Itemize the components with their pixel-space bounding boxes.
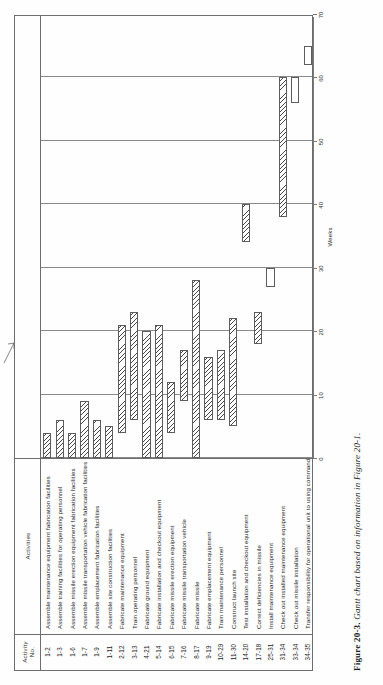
- cell-activity-no: 33-34: [289, 634, 301, 670]
- axis-tick-label-0: 0: [318, 457, 324, 460]
- gantt-bar-9-19: [204, 357, 212, 420]
- axis-tick-label-70: 70: [318, 12, 324, 19]
- axis-tick-label-40: 40: [318, 202, 324, 209]
- axis-tick-label-60: 60: [318, 75, 324, 82]
- gridline-week-60: [41, 76, 312, 77]
- cell-activity-name: Assemble missile transportation vehicle …: [78, 458, 90, 634]
- cell-activity-no: 17-18: [252, 634, 264, 670]
- cell-activity-name: Assemble missile erection equipment fabr…: [66, 458, 78, 634]
- axis-tick-label-30: 30: [318, 265, 324, 272]
- cell-activity-no: 3-13: [128, 634, 140, 670]
- gantt-bar-17-18: [254, 312, 262, 344]
- scanned-figure-page: Activity No. Activities 1-2Assemble main…: [0, 0, 383, 685]
- cell-activity-no: 1-7: [78, 634, 90, 670]
- axis-tick-0: [313, 458, 317, 459]
- axis-tick-20: [313, 331, 317, 332]
- rotated-page-wrapper: Activity No. Activities 1-2Assemble main…: [0, 0, 383, 685]
- cell-activity-name: Assemble training facilities for operati…: [53, 458, 65, 634]
- gantt-bar-1-3: [56, 420, 64, 458]
- axis-title-weeks: Weeks: [327, 227, 333, 246]
- cell-activity-no: 4-21: [140, 634, 152, 670]
- figure-sheet: Activity No. Activities 1-2Assemble main…: [0, 0, 383, 685]
- cell-activity-no: 1-6: [66, 634, 78, 670]
- figure-caption: Figure 20-3. Gantt chart based on inform…: [352, 15, 362, 671]
- cell-activity-no: 1-9: [91, 634, 103, 670]
- cell-activity-name: Fabricate ground equipment: [140, 458, 152, 634]
- cell-activity-no: 2-12: [115, 634, 127, 670]
- gantt-bar-10-29: [217, 350, 225, 420]
- cell-activity-no: 7-16: [178, 634, 190, 670]
- cell-activity-name: Install maintenance equipment: [264, 458, 276, 634]
- gantt-bar-33-34: [291, 77, 299, 102]
- cell-activity-name: Check out installed maintenance equipmen…: [277, 458, 289, 634]
- gantt-bar-6-15: [167, 382, 175, 433]
- axis-tick-60: [313, 77, 317, 78]
- gantt-bar-1-11: [105, 426, 113, 458]
- cell-activity-no: 31-34: [277, 634, 289, 670]
- cell-activity-no: 14-20: [240, 634, 252, 670]
- gantt-bar-25-31: [266, 268, 274, 287]
- figure-title: Gantt chart based on information in Figu…: [352, 433, 362, 620]
- axis-tick-40: [313, 204, 317, 205]
- cell-activity-no: 11-30: [227, 634, 239, 670]
- axis-tick-30: [313, 268, 317, 269]
- cell-activity-no: 8-17: [190, 634, 202, 670]
- gantt-bar-8-17: [192, 280, 200, 458]
- gantt-bar-11-30: [229, 318, 237, 426]
- cell-activity-name: Transfer responsibility for operational …: [302, 458, 314, 634]
- cell-activity-no: 1-11: [103, 634, 115, 670]
- axis-tick-label-10: 10: [318, 392, 324, 399]
- gantt-bar-3-13: [130, 312, 138, 420]
- cell-activity-no: 5-14: [153, 634, 165, 670]
- gantt-bar-1-2: [43, 433, 51, 458]
- gantt-plot-area: [41, 16, 312, 458]
- gantt-bar-2-12: [118, 325, 126, 433]
- gridline-week-50: [41, 140, 312, 141]
- gantt-bar-4-21: [142, 331, 150, 458]
- cell-activity-name: Assemble site construction facilities: [103, 458, 115, 634]
- cell-activity-no: 6-15: [165, 634, 177, 670]
- gantt-bar-1-6: [68, 433, 76, 458]
- cell-activity-name: Correct deficiencies in missile: [252, 458, 264, 634]
- cell-activity-name: Construct launch site: [227, 458, 239, 634]
- gantt-bar-7-16: [180, 350, 188, 401]
- gridline-week-20: [41, 330, 312, 331]
- gridline-week-10: [41, 394, 312, 395]
- cell-activity-no: 10-29: [215, 634, 227, 670]
- cell-activity-no: 34-35: [302, 634, 314, 670]
- gantt-bar-34-35: [304, 46, 312, 65]
- axis-tick-label-50: 50: [318, 139, 324, 146]
- axis-tick-50: [313, 141, 317, 142]
- cell-activity-no: 9-19: [202, 634, 214, 670]
- axis-tick-label-20: 20: [318, 329, 324, 336]
- cell-activity-name: Check out missile installation: [289, 458, 301, 634]
- gantt-bar-1-9: [93, 420, 101, 458]
- cell-activity-name: Test installation and checkout equipment: [240, 458, 252, 634]
- gantt-bar-31-34: [279, 77, 287, 217]
- cell-activity-no: 1-3: [53, 634, 65, 670]
- cell-activity-name: Fabricate maintenance equipment: [115, 458, 127, 634]
- cell-activity-name: Assemble emplacement fabrication facilit…: [91, 458, 103, 634]
- cell-activity-name: Fabricate missile erection equipment: [165, 458, 177, 634]
- gantt-bar-5-14: [155, 325, 163, 458]
- gantt-bar-14-20: [242, 204, 250, 242]
- cell-activity-name: Fabricate missile transportation vehicle: [178, 458, 190, 634]
- axis-tick-70: [313, 14, 317, 15]
- cell-activity-name: Assemble maintenance equipment fabricati…: [41, 458, 53, 634]
- cell-activity-name: Fabricate emplacement equipment: [202, 458, 214, 634]
- weeks-axis-line: [313, 17, 314, 459]
- gantt-bar-1-7: [80, 401, 88, 458]
- figure-label: Figure 20-3.: [352, 622, 362, 671]
- gantt-table: Activity No. Activities 1-2Assemble main…: [14, 15, 313, 671]
- gridline-week-40: [41, 203, 312, 204]
- cell-activity-no: 25-31: [264, 634, 276, 670]
- cell-activity-name: Train operating personnel: [128, 458, 140, 634]
- axis-tick-10: [313, 395, 317, 396]
- cell-activity-name: Train maintenance personnel: [215, 458, 227, 634]
- cell-activity-name: Fabricate installation and checkout equi…: [153, 458, 165, 634]
- cell-activity-name: Fabricate missile: [190, 458, 202, 634]
- cell-activity-no: 1-2: [41, 634, 53, 670]
